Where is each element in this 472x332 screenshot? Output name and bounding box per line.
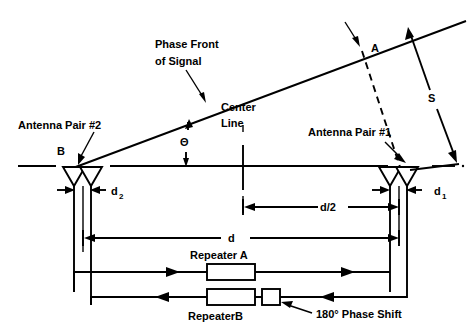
phase-shift-label-group: 180° Phase Shift <box>281 301 402 320</box>
d-total-arrowhead-left <box>84 234 95 242</box>
repeater-a-flow-arrow <box>166 267 180 277</box>
d2-label-base: d <box>111 185 118 197</box>
repeater-a-label: Repeater A <box>190 249 248 261</box>
antenna-pair-2-group: Antenna Pair #2 B <box>18 119 102 305</box>
phase-front-leader-line <box>186 70 203 97</box>
d-half-arrowhead-right <box>388 203 399 211</box>
s-dimension-group: S <box>405 27 459 170</box>
point-b-label: B <box>57 145 65 157</box>
repeater-a-path-group: Repeater A <box>74 249 390 292</box>
repeater-b-label: RepeaterB <box>188 310 243 322</box>
d-half-arrowhead-left <box>244 203 255 211</box>
antenna-pair-2-leader-line <box>80 132 94 158</box>
theta-label: Θ <box>180 136 189 148</box>
s-arrowhead-lower <box>448 150 457 163</box>
repeater-b-flow-arrow-2 <box>320 292 334 302</box>
antenna-phase-front-diagram: Θ Phase Front of Signal Center Line Ante… <box>0 0 472 332</box>
d1-label-subscript: 1 <box>442 192 447 201</box>
phase-shift-box <box>262 289 280 305</box>
d1-arrowhead-left <box>380 186 390 194</box>
phase-shift-leader-arrowhead <box>281 301 293 308</box>
point-a-projection-dashed-line <box>362 51 400 167</box>
diagram-canvas: Θ Phase Front of Signal Center Line Ante… <box>0 0 472 332</box>
phase-shift-leader-line <box>288 305 312 313</box>
d-total-dimension-group: d <box>83 230 399 246</box>
s-dim-line-lower <box>437 109 455 157</box>
antenna-2b-horn-icon <box>80 167 102 186</box>
phase-shift-label: 180° Phase Shift <box>316 308 402 320</box>
antenna-pair-2-label: Antenna Pair #2 <box>18 119 101 131</box>
point-a-leader-arrowhead <box>352 36 360 47</box>
center-line-label-line2: Line <box>221 117 244 129</box>
repeater-b-box <box>207 289 255 305</box>
phase-front-line-group <box>73 21 466 168</box>
repeater-a-box <box>207 264 255 280</box>
point-a-label: A <box>371 42 379 54</box>
d-total-arrowhead-right <box>388 234 399 242</box>
point-a-group: A <box>345 22 400 167</box>
phase-front-line <box>73 21 466 168</box>
s-label: S <box>428 92 435 104</box>
d1-dimension-group: d 1 <box>372 185 447 201</box>
phase-front-label-group: Phase Front of Signal <box>155 38 219 103</box>
antenna-pair-1-label: Antenna Pair #1 <box>308 126 391 138</box>
phase-front-label-line1: Phase Front <box>155 38 219 50</box>
theta-angle-group: Θ <box>180 119 193 167</box>
d-half-label: d/2 <box>320 201 336 213</box>
phase-front-label-line2: of Signal <box>155 55 201 67</box>
d-half-dimension-group: d/2 <box>243 199 399 215</box>
phase-front-leader-arrowhead <box>199 92 206 103</box>
baseline-dot-right <box>462 165 464 167</box>
center-line-label-line1: Center <box>221 101 257 113</box>
d-total-label: d <box>228 232 235 244</box>
d1-label-base: d <box>434 185 441 197</box>
repeater-a-flow-arrow-2 <box>341 267 355 277</box>
d2-label-subscript: 2 <box>119 192 124 201</box>
repeater-b-flow-arrow <box>155 292 169 302</box>
s-dim-line-upper <box>410 33 430 90</box>
center-line-label-group: Center Line <box>221 101 257 129</box>
